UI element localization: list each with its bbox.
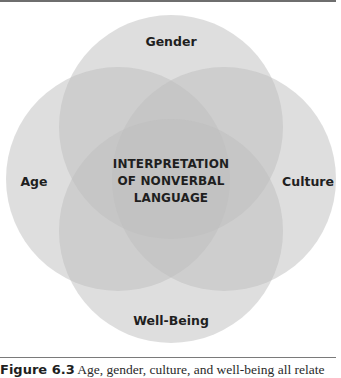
figure-caption: Figure 6.3 Age, gender, culture, and wel… xyxy=(0,361,341,378)
circle-well-being xyxy=(59,119,283,343)
caption-text: Age, gender, culture, and well-being all… xyxy=(75,362,325,377)
label-gender: Gender xyxy=(145,34,197,49)
caption-rule xyxy=(0,357,336,358)
center-label-line-2: OF NONVERBAL xyxy=(118,174,225,188)
venn-diagram: Gender Age Culture Well-Being INTERPRETA… xyxy=(0,0,341,356)
label-age: Age xyxy=(20,174,47,189)
label-well-being: Well-Being xyxy=(133,313,209,328)
label-culture: Culture xyxy=(282,174,334,189)
center-label-line-1: INTERPRETATION xyxy=(113,157,229,171)
figure-number: Figure 6.3 xyxy=(0,362,75,377)
center-label-line-3: LANGUAGE xyxy=(134,191,208,205)
